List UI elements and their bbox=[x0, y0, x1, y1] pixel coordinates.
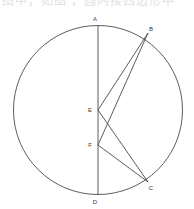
point-label-d: D bbox=[93, 199, 98, 205]
segment-fb bbox=[98, 33, 148, 145]
point-label-f: F bbox=[88, 142, 92, 148]
segment-fc bbox=[98, 145, 148, 182]
point-label-c: C bbox=[149, 185, 154, 191]
segment-ec bbox=[98, 110, 148, 182]
point-label-e: E bbox=[88, 107, 92, 113]
geometry-figure: A B C D E F bbox=[0, 0, 194, 209]
point-label-a: A bbox=[93, 16, 97, 22]
screenshot-canvas: 图中，如图 ，圆内接四边形中 A B C D E F bbox=[0, 0, 194, 209]
segment-eb bbox=[98, 33, 148, 110]
point-label-b: B bbox=[149, 26, 153, 32]
